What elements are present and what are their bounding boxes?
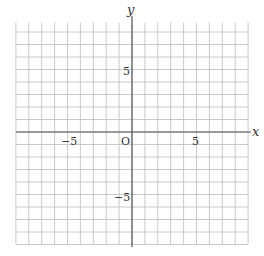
y-tick-label-5: 5 [123, 65, 130, 78]
x-tick-label-5: 5 [192, 135, 199, 148]
coordinate-plane: x y O −5 5 5 −5 [0, 0, 264, 256]
y-axis-label: y [126, 2, 135, 17]
x-tick-label-neg5: −5 [61, 135, 77, 148]
y-tick-label-neg5: −5 [114, 191, 130, 204]
origin-label: O [121, 135, 130, 148]
x-axis-label: x [252, 124, 260, 139]
